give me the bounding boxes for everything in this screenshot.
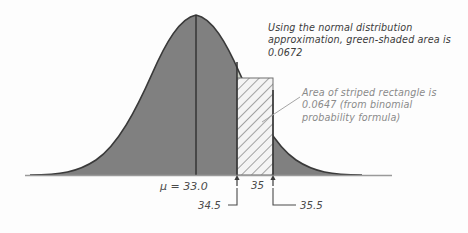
mean-label: μ = 33.0 bbox=[160, 180, 208, 193]
center-tick-label: 35 bbox=[251, 180, 264, 191]
lower-bound-label: 34.5 bbox=[198, 200, 221, 211]
normal-approximation-note: Using the normal distribution approximat… bbox=[268, 22, 464, 59]
upper-bound-label: 35.5 bbox=[300, 200, 323, 211]
tick-arrow-upper bbox=[270, 175, 275, 186]
leader-line-35-5 bbox=[273, 188, 296, 205]
tick-arrow-lower bbox=[234, 175, 239, 186]
normal-approximation-figure: Using the normal distribution approximat… bbox=[0, 0, 468, 233]
leader-line-34-5 bbox=[228, 188, 237, 205]
striped-rectangle-note: Area of striped rectangle is 0.0647 (fro… bbox=[302, 87, 466, 124]
striped-rectangle bbox=[237, 78, 273, 175]
